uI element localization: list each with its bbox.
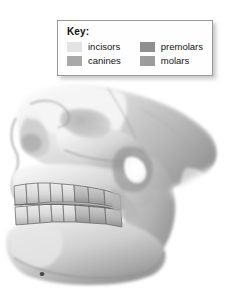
tooth-upper-premolar	[50, 183, 63, 202]
tooth-upper-canine	[38, 183, 51, 203]
legend-label-incisors: incisors	[88, 41, 120, 52]
legend-entry-canines: canines	[67, 54, 130, 67]
legend-label-canines: canines	[88, 55, 121, 66]
legend-entries: incisors premolars canines molars	[67, 40, 212, 67]
tooth-lower-premolar	[51, 204, 64, 222]
tooth-upper-molar	[74, 185, 89, 203]
tooth-lower-molar	[75, 204, 90, 223]
legend-label-molars: molars	[161, 55, 190, 66]
legend-swatch-molars	[140, 56, 155, 66]
legend-title: Key:	[67, 26, 212, 37]
tooth-upper-incisor	[14, 184, 27, 205]
tooth-lower-incisor	[27, 205, 40, 224]
legend-swatch-incisors	[67, 42, 82, 52]
legend-entry-premolars: premolars	[140, 40, 212, 53]
legend-swatch-canines	[67, 56, 82, 66]
tooth-lower-premolar	[63, 204, 76, 222]
legend-swatch-premolars	[140, 42, 155, 52]
tooth-upper-premolar	[62, 184, 75, 202]
legend-key-box: Key: incisors premolars canines molars	[57, 20, 213, 76]
legend-label-premolars: premolars	[161, 41, 203, 52]
tooth-lower-incisor	[15, 206, 28, 225]
legend-entry-incisors: incisors	[67, 40, 130, 53]
figure-canvas: Key: incisors premolars canines molars	[0, 0, 225, 304]
tooth-lower-canine	[39, 204, 52, 223]
legend-entry-molars: molars	[140, 54, 212, 67]
bottom-fade	[0, 292, 180, 304]
tooth-upper-incisor	[26, 183, 39, 204]
mental-foramen	[40, 272, 45, 276]
tooth-upper-molar	[88, 187, 105, 205]
